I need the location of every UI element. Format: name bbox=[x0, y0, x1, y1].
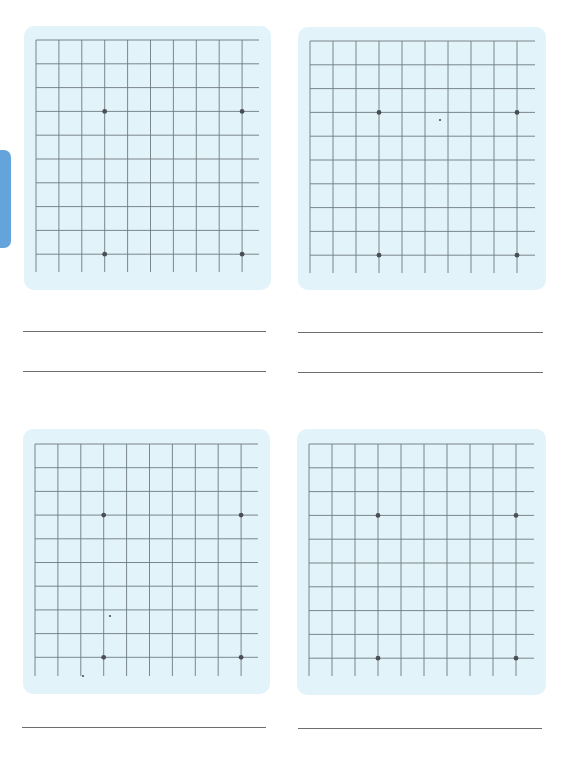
square-grid bbox=[24, 26, 271, 290]
grid-point[interactable] bbox=[376, 656, 381, 661]
grid-panel[interactable] bbox=[297, 429, 546, 695]
answer-line[interactable] bbox=[298, 728, 542, 729]
grid-panel[interactable] bbox=[23, 429, 270, 694]
grid-point[interactable] bbox=[240, 252, 245, 257]
answer-line[interactable] bbox=[22, 727, 266, 728]
grid-point[interactable] bbox=[514, 656, 519, 661]
grid-point[interactable] bbox=[377, 253, 382, 258]
grid-point[interactable] bbox=[101, 655, 106, 660]
grid-point[interactable] bbox=[102, 252, 107, 257]
grid-point[interactable] bbox=[377, 110, 382, 115]
print-speck bbox=[439, 119, 441, 121]
square-grid bbox=[23, 429, 270, 694]
answer-line[interactable] bbox=[298, 332, 543, 333]
grid-point[interactable] bbox=[101, 513, 106, 518]
grid-point[interactable] bbox=[515, 253, 520, 258]
grid-point[interactable] bbox=[240, 109, 245, 114]
grid-panel[interactable] bbox=[298, 27, 546, 290]
grid-point[interactable] bbox=[514, 513, 519, 518]
grid-point[interactable] bbox=[376, 513, 381, 518]
grid-panel[interactable] bbox=[24, 26, 271, 290]
section-side-tab bbox=[0, 150, 11, 248]
answer-line[interactable] bbox=[298, 372, 543, 373]
grid-point[interactable] bbox=[515, 110, 520, 115]
grid-point[interactable] bbox=[239, 513, 244, 518]
grid-point[interactable] bbox=[239, 655, 244, 660]
print-speck bbox=[82, 675, 84, 677]
square-grid bbox=[298, 27, 546, 290]
grid-point[interactable] bbox=[102, 109, 107, 114]
answer-line[interactable] bbox=[23, 331, 266, 332]
print-speck bbox=[109, 615, 111, 617]
square-grid bbox=[297, 429, 546, 695]
answer-line[interactable] bbox=[23, 371, 266, 372]
